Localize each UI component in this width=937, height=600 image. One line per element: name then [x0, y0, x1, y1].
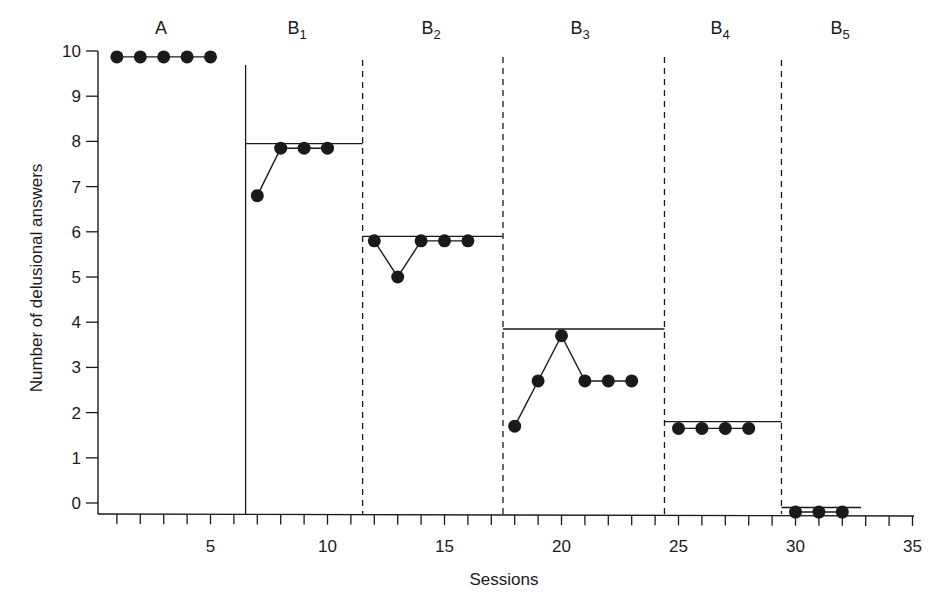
phase-label: B1 [287, 18, 306, 42]
data-point [672, 422, 685, 435]
y-tick-label: 5 [72, 268, 81, 287]
data-point [578, 374, 591, 387]
y-tick-label: 1 [72, 449, 81, 468]
x-tick-label: 25 [669, 537, 688, 556]
single-case-design-chart: 0123456789105101520253035 AB1B2B3B4B5 Se… [0, 0, 937, 600]
phase-change-lines [246, 57, 782, 514]
data-point [204, 50, 217, 63]
data-series [110, 50, 848, 518]
x-tick-label: 30 [786, 537, 805, 556]
data-point [461, 234, 474, 247]
data-point [508, 420, 521, 433]
data-point [368, 234, 381, 247]
data-point [602, 374, 615, 387]
phase-series [368, 234, 475, 283]
data-point [298, 142, 311, 155]
axes: 0123456789105101520253035 [62, 42, 922, 556]
data-point [181, 50, 194, 63]
series-line [257, 148, 327, 195]
x-tick-label: 15 [435, 537, 454, 556]
data-point [110, 50, 123, 63]
phase-label: B5 [830, 18, 849, 42]
data-point [695, 422, 708, 435]
y-tick-label: 8 [72, 132, 81, 151]
data-point [719, 422, 732, 435]
criterion-lines [246, 144, 861, 508]
data-point [812, 506, 825, 519]
y-tick-label: 2 [72, 404, 81, 423]
phase-series [672, 422, 755, 435]
phase-labels: AB1B2B3B4B5 [155, 18, 850, 42]
phase-series [789, 506, 849, 519]
y-axis-label: Number of delusional answers [27, 164, 46, 393]
data-point [134, 50, 147, 63]
phase-series [508, 329, 638, 432]
x-tick-label: 20 [552, 537, 571, 556]
phase-series [251, 142, 334, 202]
y-tick-label: 3 [72, 358, 81, 377]
data-point [532, 374, 545, 387]
data-point [391, 271, 404, 284]
chart-canvas: 0123456789105101520253035 AB1B2B3B4B5 Se… [0, 0, 937, 600]
data-point [625, 374, 638, 387]
x-tick-label: 35 [903, 537, 922, 556]
data-point [742, 422, 755, 435]
data-point [415, 234, 428, 247]
data-point [321, 142, 334, 155]
data-point [251, 189, 264, 202]
y-tick-label: 10 [62, 42, 81, 61]
y-tick-label: 0 [72, 494, 81, 513]
phase-label: B2 [421, 18, 440, 42]
y-tick-label: 6 [72, 223, 81, 242]
phase-label: B3 [570, 18, 589, 42]
y-tick-label: 4 [72, 313, 81, 332]
data-point [274, 142, 287, 155]
phase-label: B4 [710, 18, 729, 42]
data-point [438, 234, 451, 247]
x-axis-label: Sessions [470, 570, 539, 589]
phase-label: A [155, 18, 167, 38]
data-point [555, 329, 568, 342]
phase-series [110, 50, 217, 63]
data-point [157, 50, 170, 63]
y-tick-label: 9 [72, 87, 81, 106]
y-tick-label: 7 [72, 178, 81, 197]
x-tick-label: 10 [318, 537, 337, 556]
data-point [789, 506, 802, 519]
x-tick-label: 5 [206, 537, 215, 556]
data-point [836, 506, 849, 519]
